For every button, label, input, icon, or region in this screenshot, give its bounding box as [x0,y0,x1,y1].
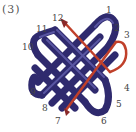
loop-number-2: 2 [114,24,120,33]
loop-number-12: 12 [52,14,63,23]
loop-number-8: 8 [42,104,48,113]
loop-number-5: 5 [116,100,122,109]
loop-number-4: 4 [124,84,130,93]
loop-number-9: 9 [30,88,36,97]
loop-number-7: 7 [55,117,61,126]
loop-number-6: 6 [101,117,107,126]
loop-number-10: 10 [22,43,33,52]
loop-number-1: 1 [106,6,112,15]
knot-diagram [0,0,136,132]
loop-number-3: 3 [124,31,130,40]
loop-number-11: 11 [36,25,47,34]
